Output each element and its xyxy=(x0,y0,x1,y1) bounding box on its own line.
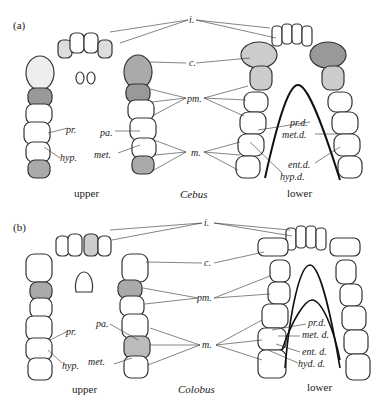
label-entoconid: ent. d. xyxy=(302,347,327,357)
label-protoconid: pr.d. xyxy=(308,318,326,328)
label-protocone: pr. xyxy=(66,125,76,135)
caption-genus: Cebus xyxy=(180,189,208,200)
label-hypocone: hyp. xyxy=(62,361,79,371)
label-entoconid: ent.d. xyxy=(288,160,310,170)
label-protoconid: pr.d. xyxy=(290,118,308,128)
label-hypoconid: hyp.d. xyxy=(280,172,304,182)
label-premolars: pm. xyxy=(187,94,202,104)
panel-label-b: (b) xyxy=(13,222,26,233)
label-premolars: pm. xyxy=(197,293,212,303)
caption-genus: Colobus xyxy=(178,384,215,395)
label-metaconid: met.d. xyxy=(282,130,306,140)
caption-lower: lower xyxy=(287,188,312,199)
caption-upper: upper xyxy=(74,188,99,199)
label-hypocone: hyp. xyxy=(60,153,77,163)
caption-upper: upper xyxy=(72,384,97,395)
label-metacone: met. xyxy=(88,357,105,367)
panel-a-cebus: (a) i. c. pm. m. pr. hyp. pa. met. pr.d.… xyxy=(0,0,379,200)
label-protocone: pr. xyxy=(66,327,76,337)
label-molars: m. xyxy=(191,148,201,158)
colobus-dentition-drawing xyxy=(0,200,379,401)
label-metacone: met. xyxy=(94,150,111,160)
label-hypoconulid: hyd. d. xyxy=(298,359,325,369)
label-canine: c. xyxy=(204,258,211,268)
label-incisors: i. xyxy=(189,15,194,25)
panel-b-colobus: (b) i. c. pm. m. pr. hyp. pa. met. pr.d.… xyxy=(0,200,379,401)
label-incisors: i. xyxy=(204,218,209,228)
label-metaconid: met. d. xyxy=(302,330,329,340)
caption-lower: lower xyxy=(307,382,332,393)
label-paracone: pa. xyxy=(96,319,109,329)
label-canine: c. xyxy=(189,58,196,68)
label-paracone: pa. xyxy=(100,128,113,138)
label-molars: m. xyxy=(202,340,212,350)
panel-label-a: (a) xyxy=(13,20,25,31)
